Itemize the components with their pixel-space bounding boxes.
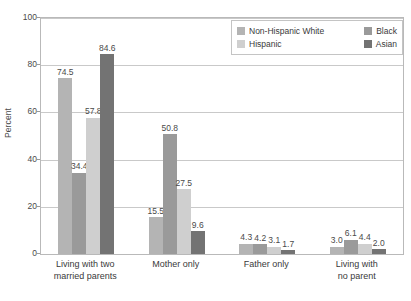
legend-swatch-icon (364, 27, 372, 35)
legend-label: Hispanic (249, 39, 282, 49)
legend-entry-hispanic: Hispanic (237, 39, 282, 49)
x-axis-category-line: Mother only (131, 259, 222, 271)
bar (86, 118, 100, 254)
x-axis-category-label: Living with twomarried parents (40, 259, 131, 282)
bar-value-label: 1.7 (272, 240, 304, 249)
legend-row: Hispanic Asian (237, 37, 397, 50)
bar (372, 249, 386, 254)
bar-value-label: 50.8 (154, 124, 186, 133)
legend-row: Non-Hispanic White Black (237, 24, 397, 37)
y-axis-tick-label: 60 (5, 106, 37, 116)
legend: Non-Hispanic White Black Hispanic Asian (231, 20, 403, 55)
y-axis-tick-label: 20 (5, 201, 37, 211)
bar-group: 74.534.457.884.6 (58, 18, 114, 254)
bar (149, 217, 163, 254)
y-axis-tick-label: 80 (5, 59, 37, 69)
x-axis-category-line: Living with (312, 259, 403, 271)
x-axis-category-label: Living withno parent (312, 259, 403, 282)
legend-swatch-icon (364, 40, 372, 48)
x-axis-category-label: Father only (221, 259, 312, 271)
bar (239, 244, 253, 254)
y-axis-tick-label: 40 (5, 154, 37, 164)
bar-value-label: 9.6 (182, 221, 214, 230)
legend-swatch-icon (237, 27, 245, 35)
bar (330, 247, 344, 254)
y-axis-tick-mark (36, 111, 40, 112)
legend-entry-non-hispanic-white: Non-Hispanic White (237, 26, 324, 36)
bar-group: 15.550.827.59.6 (149, 18, 205, 254)
bar (281, 250, 295, 254)
y-axis-tick-mark (36, 159, 40, 160)
legend-swatch-icon (237, 40, 245, 48)
y-axis-tick-mark (36, 64, 40, 65)
bar-value-label: 74.5 (49, 68, 81, 77)
x-axis-category-label: Mother only (131, 259, 222, 271)
bar-value-label: 27.5 (168, 179, 200, 188)
y-axis-tick-mark (36, 253, 40, 254)
x-axis-category-line: Father only (221, 259, 312, 271)
bar-chart: Percent 74.534.457.884.615.550.827.59.64… (0, 0, 411, 301)
bar (344, 240, 358, 254)
x-axis-category-line: no parent (312, 271, 403, 283)
x-axis-category-line: Living with two (40, 259, 131, 271)
y-axis-tick-mark (36, 206, 40, 207)
bar (191, 231, 205, 254)
y-axis-tick-label: 100 (5, 12, 37, 22)
x-axis-category-line: married parents (40, 271, 131, 283)
legend-entry-asian: Asian (364, 39, 397, 49)
bar (253, 244, 267, 254)
bar (72, 173, 86, 254)
y-axis-title: Percent (3, 93, 13, 153)
bar-value-label: 2.0 (363, 239, 395, 248)
bar (163, 134, 177, 254)
legend-label: Non-Hispanic White (249, 26, 324, 36)
legend-entry-black: Black (364, 26, 397, 36)
legend-label: Asian (376, 39, 397, 49)
y-axis-tick-label: 0 (5, 248, 37, 258)
bar-value-label: 84.6 (91, 44, 123, 53)
bar (100, 54, 114, 254)
legend-label: Black (376, 26, 397, 36)
y-axis-tick-mark (36, 17, 40, 18)
